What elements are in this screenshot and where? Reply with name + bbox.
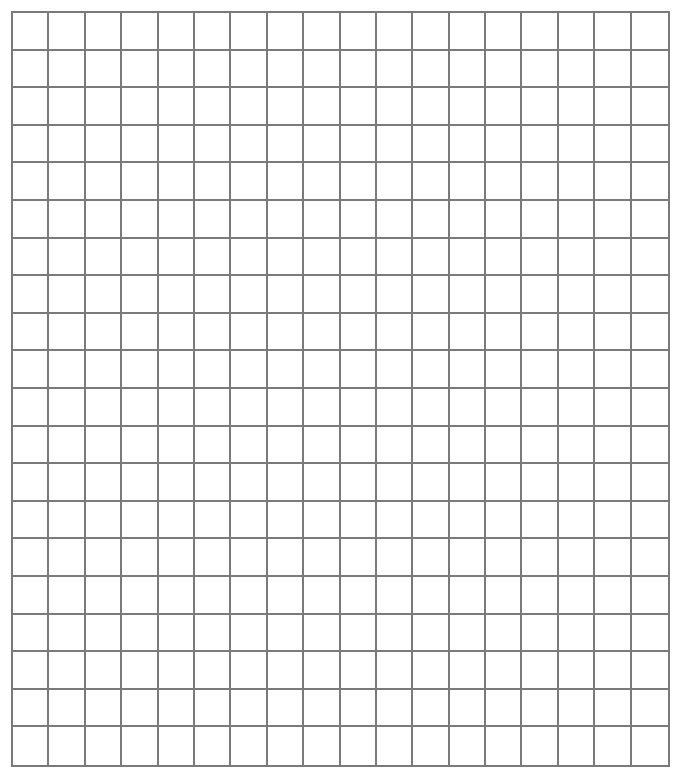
grid-cell [304,51,340,89]
grid-cell [159,577,195,615]
grid-cell [595,464,631,502]
grid-cell [413,351,449,389]
grid-cell [632,13,668,51]
grid-cell [195,464,231,502]
grid-cell [122,577,158,615]
grid-cell [49,88,85,126]
grid-cell [595,314,631,352]
grid-cell [377,351,413,389]
grid-cell [159,351,195,389]
grid-cell [304,464,340,502]
grid-cell [86,126,122,164]
grid-cell [486,126,522,164]
grid-cell [486,502,522,540]
grid-cell [522,201,558,239]
grid-cell [522,126,558,164]
grid-cell [231,615,267,653]
grid-cell [377,276,413,314]
grid-cell [413,201,449,239]
grid-cell [195,615,231,653]
grid-cell [195,314,231,352]
grid-cell [341,13,377,51]
grid-cell [49,351,85,389]
grid-cell [13,652,49,690]
grid-cell [522,239,558,277]
grid-cell [231,201,267,239]
grid-cell [522,163,558,201]
grid-cell [268,427,304,465]
grid-cell [231,163,267,201]
grid-cell [268,539,304,577]
grid-cell [49,126,85,164]
grid-cell [86,201,122,239]
grid-cell [341,502,377,540]
grid-cell [159,464,195,502]
grid-cell [341,389,377,427]
grid-cell [231,51,267,89]
grid-cell [122,314,158,352]
grid-cell [195,389,231,427]
grid-cell [122,51,158,89]
grid-cell [595,577,631,615]
grid-cell [49,577,85,615]
grid-cell [486,539,522,577]
grid-cell [486,427,522,465]
grid-cell [13,615,49,653]
grid-cell [632,389,668,427]
grid-cell [49,690,85,728]
grid-cell [159,88,195,126]
grid-cell [268,502,304,540]
grid-cell [268,727,304,765]
grid-cell [559,239,595,277]
grid-cell [86,577,122,615]
grid-cell [486,652,522,690]
grid-cell [450,51,486,89]
grid-cell [122,13,158,51]
grid-cell [122,201,158,239]
grid-cell [413,652,449,690]
grid-cell [559,502,595,540]
grid-cell [413,464,449,502]
grid-cell [268,163,304,201]
grid-cell [195,577,231,615]
grid-cell [341,201,377,239]
grid-cell [304,13,340,51]
grid-cell [450,351,486,389]
grid-cell [268,126,304,164]
grid-cell [13,389,49,427]
grid-cell [595,539,631,577]
grid-cell [268,201,304,239]
grid-cell [341,652,377,690]
grid-cell [304,652,340,690]
grid-cell [413,539,449,577]
grid-cell [522,276,558,314]
grid-cell [377,201,413,239]
grid-cell [450,652,486,690]
grid-cell [159,389,195,427]
blank-grid-paper [11,11,670,767]
grid-cell [486,389,522,427]
grid-cell [632,502,668,540]
grid-cell [450,615,486,653]
grid-cell [341,163,377,201]
grid-cell [486,690,522,728]
grid-cell [304,427,340,465]
grid-cell [231,126,267,164]
grid-cell [159,126,195,164]
grid-cell [13,276,49,314]
grid-cell [413,13,449,51]
grid-cell [341,615,377,653]
grid-cell [595,126,631,164]
grid-cell [595,276,631,314]
grid-cell [632,464,668,502]
grid-cell [377,427,413,465]
grid-cell [486,464,522,502]
grid-cell [522,690,558,728]
grid-cell [522,13,558,51]
grid-cell [49,314,85,352]
grid-cell [159,615,195,653]
grid-cell [122,389,158,427]
grid-cell [13,239,49,277]
grid-cell [195,13,231,51]
grid-cell [122,239,158,277]
